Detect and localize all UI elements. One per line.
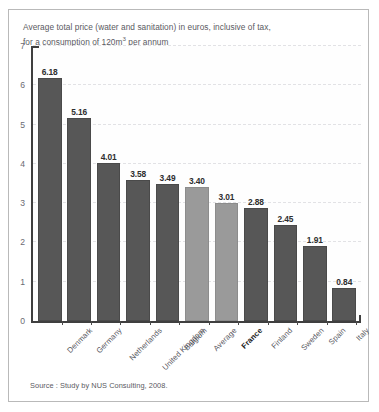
source-note: Source : Study by NUS Consulting, 2008. bbox=[30, 381, 168, 390]
y-axis-tick-label: 2 bbox=[20, 237, 25, 247]
bar-value-label: 2.45 bbox=[277, 214, 293, 224]
y-axis-tick-label: 5 bbox=[20, 120, 25, 130]
bar-netherlands: 4.01 bbox=[97, 163, 121, 321]
bar-united-kingdom: 3.58 bbox=[126, 180, 150, 321]
x-axis-tick bbox=[238, 321, 239, 325]
bar-value-label: 3.49 bbox=[160, 173, 176, 183]
x-axis-label-netherlands: Netherlands bbox=[127, 326, 163, 362]
bar-value-label: 3.01 bbox=[219, 192, 235, 202]
bar-value-label: 4.01 bbox=[101, 152, 117, 162]
bar-value-label: 3.40 bbox=[189, 176, 205, 186]
y-axis-tick-label: 3 bbox=[20, 198, 25, 208]
chart-figure: Average total price (water and sanitatio… bbox=[8, 9, 369, 402]
x-axis-label-spain: Spain bbox=[327, 326, 348, 347]
y-axis-tick-label: 1 bbox=[20, 277, 25, 287]
y-axis-tick-label: 0 bbox=[20, 316, 25, 326]
x-axis-label-italy: Italy bbox=[355, 326, 372, 343]
x-axis-tick bbox=[209, 321, 210, 325]
x-axis-tick bbox=[120, 321, 121, 325]
bar-france: 3.01 bbox=[215, 203, 239, 321]
x-axis-tick bbox=[327, 321, 328, 325]
x-axis-tick bbox=[297, 321, 298, 325]
gridline bbox=[33, 45, 361, 46]
bar-finland: 2.88 bbox=[244, 208, 268, 321]
bar-value-label: 2.88 bbox=[248, 197, 264, 207]
y-axis-top-cap bbox=[31, 46, 39, 48]
bar-average: 3.40 bbox=[185, 187, 209, 321]
x-axis-label-finland: Finland bbox=[269, 326, 294, 351]
plot-area: 6.185.164.013.583.493.403.012.882.451.91… bbox=[31, 46, 361, 323]
x-axis-label-denmark: Denmark bbox=[65, 326, 94, 355]
y-axis-tick-label: 7 bbox=[20, 41, 25, 51]
bar-value-label: 5.16 bbox=[71, 107, 87, 117]
gridline bbox=[33, 84, 361, 85]
x-axis-tick bbox=[356, 321, 357, 325]
bar-denmark: 6.18 bbox=[38, 78, 62, 321]
y-axis-line bbox=[31, 46, 33, 323]
x-axis-tick bbox=[179, 321, 180, 325]
y-axis-tick-label: 6 bbox=[20, 80, 25, 90]
plot-inner: 6.185.164.013.583.493.403.012.882.451.91… bbox=[31, 46, 361, 323]
bar-sweden: 2.45 bbox=[274, 225, 298, 321]
x-axis-tick bbox=[91, 321, 92, 325]
bar-spain: 1.91 bbox=[303, 246, 327, 321]
bar-value-label: 3.58 bbox=[130, 169, 146, 179]
y-axis-tick-label: 4 bbox=[20, 159, 25, 169]
bar-value-label: 1.91 bbox=[307, 235, 323, 245]
chart-title-line-1: Average total price (water and sanitatio… bbox=[23, 21, 353, 33]
x-axis-tick bbox=[268, 321, 269, 325]
bar-italy: 0.84 bbox=[332, 288, 356, 321]
x-axis-label-france: France bbox=[240, 326, 265, 351]
x-axis-tick bbox=[62, 321, 63, 325]
x-axis-label-sweden: Sweden bbox=[300, 326, 326, 352]
x-axis-line bbox=[31, 321, 361, 323]
bar-germany: 5.16 bbox=[67, 118, 91, 321]
x-axis-category-labels: DenmarkGermanyNetherlandsUnited KingdomB… bbox=[31, 326, 361, 381]
x-axis-label-germany: Germany bbox=[95, 326, 124, 355]
bar-value-label: 0.84 bbox=[336, 277, 352, 287]
bar-belgium: 3.49 bbox=[156, 184, 180, 321]
bar-value-label: 6.18 bbox=[42, 67, 58, 77]
x-axis-tick bbox=[150, 321, 151, 325]
x-axis-right-cap bbox=[359, 315, 361, 323]
x-axis-label-average: Average bbox=[212, 326, 239, 353]
